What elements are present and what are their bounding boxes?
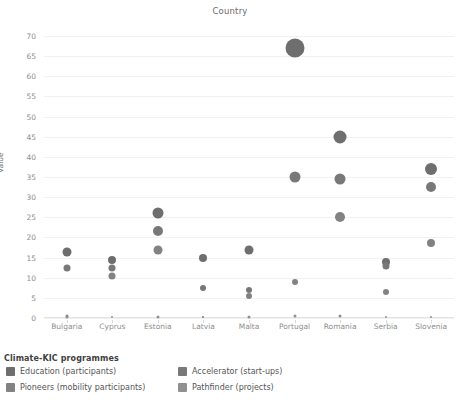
gridline — [44, 137, 454, 138]
x-tick-label: Malta — [239, 322, 260, 331]
scatter-chart: Country Value 05101520253035404550556065… — [0, 0, 460, 403]
data-point[interactable] — [109, 272, 116, 279]
data-point[interactable] — [425, 163, 437, 175]
data-point[interactable] — [293, 315, 296, 318]
legend-item-label: Pioneers (mobility participants) — [20, 383, 145, 392]
data-point[interactable] — [335, 212, 345, 222]
gridline — [44, 217, 454, 218]
data-point[interactable] — [385, 316, 387, 318]
legend-item-label: Education (participants) — [20, 367, 116, 376]
gridline — [44, 197, 454, 198]
legend-item-pathfinder[interactable]: Pathfinder (projects) — [178, 383, 274, 392]
gridline — [44, 177, 454, 178]
data-point[interactable] — [62, 247, 71, 256]
gridline — [44, 278, 454, 279]
data-point[interactable] — [246, 293, 252, 299]
gridline — [44, 237, 454, 238]
y-tick-label: 5 — [31, 293, 36, 302]
data-point[interactable] — [65, 315, 68, 318]
x-tick-label: Cyprus — [99, 322, 125, 331]
gridline — [44, 157, 454, 158]
x-tick-label: Portugal — [279, 322, 310, 331]
legend-item-label: Accelerator (start-ups) — [192, 367, 282, 376]
plot-area — [44, 28, 454, 318]
data-point[interactable] — [63, 264, 70, 271]
y-tick-label: 55 — [26, 92, 36, 101]
legend-item-education[interactable]: Education (participants) — [6, 367, 116, 376]
y-tick-label: 70 — [26, 32, 36, 41]
gridline — [44, 96, 454, 97]
data-point[interactable] — [111, 316, 113, 318]
x-tick-label: Slovenia — [415, 322, 447, 331]
data-point[interactable] — [426, 182, 436, 192]
x-tick-label: Romania — [324, 322, 357, 331]
gridline — [44, 117, 454, 118]
x-tick-label: Latvia — [192, 322, 215, 331]
y-tick-label: 50 — [26, 112, 36, 121]
data-point[interactable] — [292, 279, 298, 285]
data-point[interactable] — [200, 285, 206, 291]
y-tick-label: 65 — [26, 52, 36, 61]
data-point[interactable] — [383, 289, 389, 295]
data-point[interactable] — [152, 208, 163, 219]
data-point[interactable] — [156, 315, 159, 318]
gridline — [44, 56, 454, 57]
legend-swatch-icon — [178, 383, 187, 392]
y-tick-label: 10 — [26, 273, 36, 282]
x-tick-label: Estonia — [144, 322, 172, 331]
y-tick-label: 60 — [26, 72, 36, 81]
x-tick-label: Bulgaria — [51, 322, 82, 331]
y-tick-label: 35 — [26, 173, 36, 182]
legend-item-pioneers[interactable]: Pioneers (mobility participants) — [6, 383, 145, 392]
legend-swatch-icon — [6, 383, 15, 392]
data-point[interactable] — [334, 130, 347, 143]
y-tick-label: 15 — [26, 253, 36, 262]
data-point[interactable] — [202, 316, 204, 318]
legend-swatch-icon — [6, 367, 15, 376]
y-tick-label: 30 — [26, 193, 36, 202]
data-point[interactable] — [153, 226, 163, 236]
y-tick-label: 0 — [31, 314, 36, 323]
data-point[interactable] — [108, 256, 116, 264]
y-tick-label: 20 — [26, 233, 36, 242]
gridline — [44, 76, 454, 77]
data-point[interactable] — [339, 315, 342, 318]
legend-title: Climate-KIC programmes — [4, 354, 119, 363]
chart-title: Country — [0, 6, 460, 16]
data-point[interactable] — [245, 245, 254, 254]
gridline — [44, 258, 454, 259]
gridline — [44, 36, 454, 37]
data-point[interactable] — [109, 264, 116, 271]
legend: Climate-KIC programmes Education (partic… — [4, 354, 456, 400]
legend-swatch-icon — [178, 367, 187, 376]
plot-background — [44, 28, 454, 318]
data-point[interactable] — [153, 245, 162, 254]
legend-item-label: Pathfinder (projects) — [192, 383, 274, 392]
data-point[interactable] — [430, 316, 432, 318]
legend-item-accelerator[interactable]: Accelerator (start-ups) — [178, 367, 282, 376]
data-point[interactable] — [199, 254, 207, 262]
y-tick-label: 25 — [26, 213, 36, 222]
y-axis-ticks: 0510152025303540455055606570 — [0, 28, 40, 318]
data-point[interactable] — [248, 315, 251, 318]
x-axis-ticks: BulgariaCyprusEstoniaLatviaMaltaPortugal… — [44, 320, 454, 338]
data-point[interactable] — [335, 174, 346, 185]
data-point[interactable] — [285, 39, 304, 58]
data-point[interactable] — [382, 262, 389, 269]
data-point[interactable] — [289, 172, 300, 183]
y-tick-label: 40 — [26, 152, 36, 161]
x-tick-label: Serbia — [374, 322, 398, 331]
data-point[interactable] — [427, 239, 435, 247]
y-tick-label: 45 — [26, 132, 36, 141]
